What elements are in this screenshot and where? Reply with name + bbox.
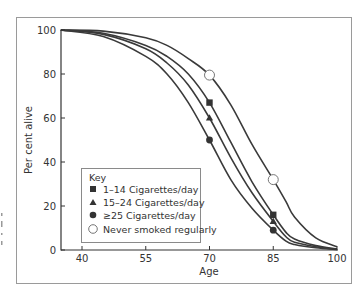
square-marker-icon [206, 99, 212, 105]
square-marker-icon [90, 186, 96, 192]
legend-item-25-plus: ≥25 Cigarettes/day [90, 210, 196, 221]
y-tick-label: 60 [43, 113, 56, 124]
y-tick-label: 80 [43, 69, 56, 80]
filled-circle-marker-icon [90, 212, 97, 219]
x-tick-label: 55 [139, 253, 152, 264]
square-marker-icon [270, 212, 276, 218]
svg-text:Never smoked regularly: Never smoked regularly [103, 224, 217, 235]
legend-item-never: Never smoked regularly [89, 224, 217, 235]
svg-text:≥25 Cigarettes/day: ≥25 Cigarettes/day [103, 210, 196, 221]
x-tick-label: 70 [203, 253, 216, 264]
legend-title: Key [89, 172, 107, 183]
y-tick-label: 0 [50, 245, 56, 256]
svg-text:1–14 Cigarettes/day: 1–14 Cigarettes/day [103, 184, 199, 195]
legend: Key 1–14 Cigarettes/day 15–24 Cigarettes… [82, 169, 218, 243]
page-edge-marks [1, 213, 3, 245]
open-circle-marker-icon [89, 225, 98, 234]
svg-text:15–24 Cigarettes/day: 15–24 Cigarettes/day [103, 197, 205, 208]
x-tick-label: 85 [267, 253, 280, 264]
filled-circle-marker-icon [270, 227, 277, 234]
y-tick-label: 100 [37, 25, 56, 36]
x-tick-label: 100 [327, 253, 346, 264]
open-circle-marker-icon [205, 70, 215, 80]
x-tick-label: 40 [76, 253, 89, 264]
x-axis-label: Age [199, 266, 218, 277]
y-tick-label: 20 [43, 201, 56, 212]
legend-item-15-24: 15–24 Cigarettes/day [90, 197, 205, 208]
open-circle-marker-icon [268, 175, 278, 185]
y-axis-label: Per cent alive [23, 106, 34, 174]
y-tick-label: 40 [43, 157, 56, 168]
survival-chart: 020406080100 Per cent alive 40557085100 … [0, 0, 363, 293]
filled-circle-marker-icon [206, 137, 213, 144]
legend-item-1-14: 1–14 Cigarettes/day [90, 184, 199, 195]
